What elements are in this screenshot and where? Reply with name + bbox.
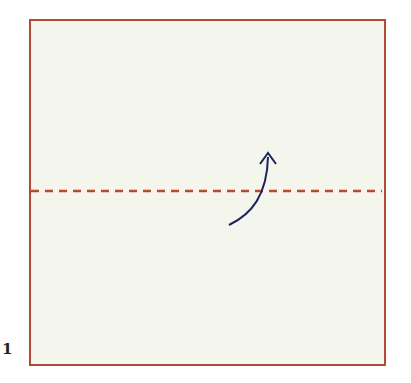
fold-up-arrow-icon <box>229 153 276 225</box>
fold-annotations <box>0 0 411 383</box>
step-number: 1 <box>2 340 12 358</box>
